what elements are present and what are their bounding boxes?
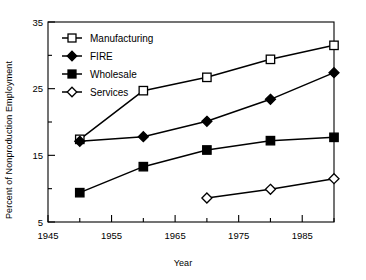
line-chart-plot: 515253519451955196519751985 Manufacturin… bbox=[0, 0, 366, 280]
y-tick-label: 25 bbox=[32, 83, 43, 94]
legend-item-services: Services bbox=[62, 87, 128, 98]
series-services bbox=[202, 174, 339, 203]
legend-item-manufacturing: Manufacturing bbox=[62, 33, 153, 44]
x-tick-label: 1945 bbox=[37, 230, 58, 241]
y-tick-label: 15 bbox=[32, 150, 43, 161]
x-tick-label: 1975 bbox=[228, 230, 249, 241]
legend-label: Services bbox=[90, 87, 128, 98]
x-tick-label: 1965 bbox=[165, 230, 186, 241]
x-tick-label: 1985 bbox=[292, 230, 313, 241]
y-tick-label: 5 bbox=[38, 217, 43, 228]
y-tick-label: 35 bbox=[32, 17, 43, 28]
legend-item-fire: FIRE bbox=[62, 51, 113, 62]
legend-item-wholesale: Wholesale bbox=[62, 69, 137, 80]
series-layer bbox=[75, 41, 339, 203]
x-tick-label: 1955 bbox=[101, 230, 122, 241]
chart-container: Percent of Nonproduction Employment Year… bbox=[0, 0, 366, 280]
series-wholesale bbox=[76, 133, 339, 197]
axes-layer: 515253519451955196519751985 bbox=[32, 17, 334, 242]
legend-label: FIRE bbox=[90, 51, 113, 62]
legend-label: Manufacturing bbox=[90, 33, 153, 44]
legend-label: Wholesale bbox=[90, 69, 137, 80]
